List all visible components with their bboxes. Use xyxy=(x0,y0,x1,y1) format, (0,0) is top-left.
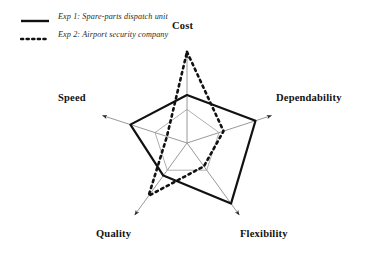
axis-label-cost: Cost xyxy=(172,20,193,31)
radar-series-exp2 xyxy=(149,52,224,196)
radar-axes xyxy=(102,54,271,215)
axis-line-dependability xyxy=(187,116,272,144)
radar-chart-figure: Exp 1: Spare-parts dispatch unit Exp 2: … xyxy=(0,0,367,259)
axis-label-flexibility: Flexibility xyxy=(240,228,288,239)
axis-label-speed: Speed xyxy=(58,92,86,103)
axis-line-speed xyxy=(102,116,187,144)
axis-label-dependability: Dependability xyxy=(276,92,342,103)
axis-label-quality: Quality xyxy=(96,228,131,239)
radar-series-exp1 xyxy=(130,95,255,204)
radar-plot-area xyxy=(0,0,367,259)
